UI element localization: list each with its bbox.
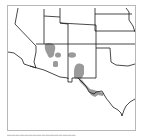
map-caption: ▬▬▬▬▬▬▬▬▬▬▬▬▬▬▬▬ [7, 132, 102, 137]
range-areas [45, 43, 104, 97]
range-southern-new-mexico [74, 64, 84, 79]
border-kansas [96, 25, 135, 44]
range-rio-grande-texas [78, 78, 104, 97]
state-borders [8, 8, 135, 116]
range-central-arizona [55, 52, 61, 57]
border-oklahoma-panhandle [96, 48, 135, 66]
range-northern-arizona [45, 43, 55, 58]
border-us-mexico-west [30, 66, 78, 82]
border-utah-wyoming [44, 16, 68, 24]
range-map [7, 5, 136, 131]
border-rio-grande [78, 78, 135, 116]
border-california-nevada [15, 8, 36, 52]
range-northern-new-mexico [68, 52, 76, 58]
border-missouri-river [126, 8, 135, 32]
border-california-arizona [8, 52, 36, 68]
range-southern-arizona [53, 61, 58, 67]
map-canvas [8, 6, 135, 130]
